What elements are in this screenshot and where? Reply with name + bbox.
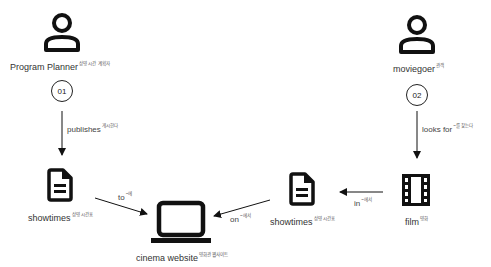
actor-label-program-planner: Program Planner상영 시간 계획자 bbox=[10, 60, 110, 72]
edge-label-to: to~에 bbox=[118, 190, 132, 202]
person-icon bbox=[40, 10, 84, 58]
document-icon bbox=[289, 172, 315, 210]
person-icon bbox=[395, 12, 439, 60]
actor-label-moviegoer: moviegoer관객 bbox=[393, 62, 444, 74]
step-badge-01: 01 bbox=[51, 80, 73, 102]
edge-label-looks-for: looks for~를 찾는다 bbox=[422, 122, 473, 134]
document-icon bbox=[47, 168, 73, 206]
node-label-showtimes-left: showtimes상영 시간표 bbox=[28, 211, 93, 223]
node-label-film: film영화 bbox=[405, 215, 428, 227]
laptop-icon bbox=[150, 200, 212, 248]
node-label-showtimes-right: showtimes상영 시간표 bbox=[270, 215, 335, 227]
step-badge-02: 02 bbox=[406, 84, 428, 106]
node-label-cinema-website: cinema website영화관 웹사이트 bbox=[136, 251, 228, 263]
film-strip-icon bbox=[402, 174, 430, 210]
edge-label-on: on~에서 bbox=[230, 212, 251, 224]
edge-label-publishes: publishes게시한다 bbox=[67, 122, 118, 134]
edge-label-in: in~에서 bbox=[354, 196, 372, 208]
